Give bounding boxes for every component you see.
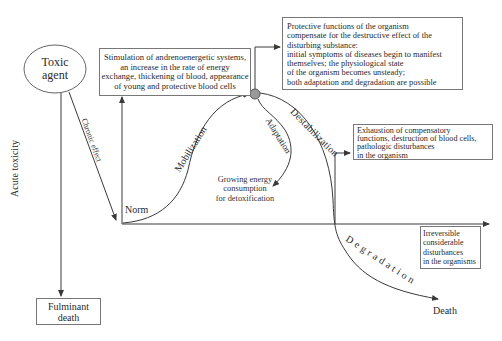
irreversible-line: considerable	[423, 238, 480, 247]
protective-line: themselves; the physiological state	[287, 59, 462, 68]
fulminant-line2: death	[37, 312, 100, 323]
toxic-agent-line1: Toxic	[41, 55, 68, 69]
irreversible-line: disturbances	[423, 248, 480, 257]
stimulation-line: of young and protective blood cells	[100, 82, 250, 92]
protective-line: initial symptoms of diseases begin to ma…	[287, 50, 462, 59]
energy-line2: consumption	[223, 184, 266, 193]
protective-line: Protective functions of the organism	[287, 22, 462, 31]
norm-label: Norm	[125, 204, 148, 215]
exhaustion-line: in the organism	[357, 152, 492, 160]
protective-functions-box: Protective functions of the organism com…	[282, 17, 463, 90]
stimulation-box: Stimulation of andrenoenergetic systems,…	[99, 48, 251, 96]
irreversible-box: Irreversible considerable disturbances i…	[420, 226, 481, 269]
irreversible-line: Irreversible	[423, 229, 480, 238]
protective-line: of the organism becomes unsteady;	[287, 68, 462, 77]
node-to-protective-connector	[255, 47, 280, 90]
toxic-agent-line2: agent	[42, 68, 68, 82]
fulminant-death-box: Fulminant death	[36, 298, 101, 325]
acute-toxicity-label: Acute toxicity	[9, 140, 20, 197]
exhaustion-connector	[335, 153, 350, 190]
death-label: Death	[433, 305, 457, 316]
critical-point-node	[250, 89, 260, 99]
energy-consumption-label: Growing energy consumption for detoxific…	[200, 175, 290, 203]
energy-line3: for detoxification	[216, 194, 274, 203]
protective-line: disturbing substance:	[287, 41, 462, 50]
protective-line: compensate for the destructive effect of…	[287, 31, 462, 40]
protective-line: both adaptation and degradation are poss…	[287, 78, 462, 87]
toxic-agent-label: Toxic agent	[24, 56, 86, 82]
irreversible-line: in the organisms	[423, 257, 480, 266]
energy-line1: Growing energy	[218, 175, 273, 184]
fulminant-line1: Fulminant	[37, 301, 100, 312]
exhaustion-box: Exhaustion of compensatory functions, de…	[353, 124, 493, 160]
